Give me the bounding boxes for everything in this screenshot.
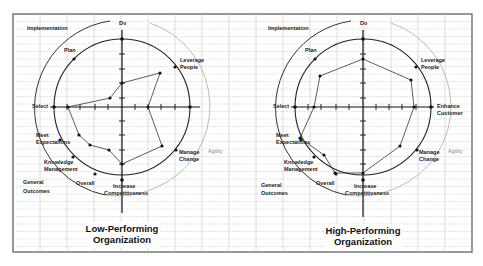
label-implementation: Implementation: [27, 25, 68, 31]
label-overall: Overall: [76, 180, 95, 186]
panel-title-low-line2: Organization: [93, 234, 151, 245]
label-general-outcomes-2: Outcomes: [261, 190, 288, 196]
panel-title-high-line1: High-Performing: [326, 225, 401, 236]
label-select: Select: [32, 103, 48, 109]
label-manage-change-1: Manage: [179, 149, 199, 155]
label-plan: Plan: [64, 47, 76, 53]
data-point: [318, 74, 321, 77]
data-point: [361, 171, 364, 174]
data-point: [77, 133, 80, 136]
label-overall: Overall: [316, 180, 335, 186]
label-general-outcomes-1: General: [23, 179, 44, 185]
label-enhance-customer-2: Customer: [437, 110, 464, 116]
label-increase-competitiveness-1: Increase: [113, 183, 135, 189]
label-knowledge-management-2: Management: [44, 166, 78, 172]
label-agility: Agility: [208, 148, 223, 154]
label-meet-expectations-2: Expectations: [36, 139, 70, 145]
data-point: [120, 162, 123, 165]
data-point: [66, 105, 69, 108]
label-do: Do: [119, 20, 127, 26]
label-meet-expectations-1: Meet: [36, 132, 49, 138]
label-enhance-customer-1: Enhance: [437, 103, 460, 109]
label-select: Select: [273, 103, 289, 109]
panel-title-high-line2: Organization: [334, 236, 392, 247]
data-point: [312, 105, 315, 108]
data-point: [412, 105, 415, 108]
data-point: [398, 144, 401, 147]
label-implementation: Implementation: [268, 25, 309, 31]
label-manage-change-2: Change: [179, 156, 199, 162]
data-point: [88, 143, 91, 146]
label-meet-expectations-2: Expectations: [276, 139, 310, 145]
data-point: [108, 96, 111, 99]
label-do: Do: [360, 20, 368, 26]
panel-title-low-line1: Low-Performing: [86, 223, 159, 234]
data-point: [146, 105, 149, 108]
performance-comparison-diagram: Implementation Do Plan Leverage People S…: [0, 0, 483, 266]
label-general-outcomes-1: General: [261, 182, 282, 188]
data-point: [361, 57, 364, 60]
data-point: [107, 148, 110, 151]
label-leverage-people-1: Leverage: [421, 57, 445, 63]
label-knowledge-management-1: Knowledge: [284, 159, 313, 165]
label-leverage-people-2: People: [421, 64, 439, 70]
label-leverage-people-2: People: [180, 64, 198, 70]
label-knowledge-management-2: Management: [284, 166, 318, 172]
label-increase-competitiveness-2: Competitiveness: [345, 190, 389, 196]
label-plan: Plan: [305, 47, 317, 53]
label-general-outcomes-2: Outcomes: [23, 188, 50, 194]
data-point: [158, 71, 161, 74]
data-point: [160, 144, 163, 147]
label-increase-competitiveness-1: Increase: [354, 183, 376, 189]
label-manage-change-1: Manage: [419, 149, 439, 155]
label-leverage-people-1: Leverage: [180, 57, 204, 63]
data-point: [120, 81, 123, 84]
data-point: [409, 78, 412, 81]
data-point: [322, 153, 325, 156]
label-meet-expectations-1: Meet: [276, 132, 289, 138]
label-agility: Agility: [448, 148, 463, 154]
label-manage-change-2: Change: [419, 156, 439, 162]
label-increase-competitiveness-2: Competitiveness: [104, 190, 148, 196]
label-knowledge-management-1: Knowledge: [44, 159, 73, 165]
data-point: [333, 171, 336, 174]
